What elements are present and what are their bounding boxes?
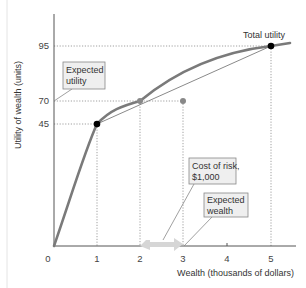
point-3-70 [180, 98, 186, 104]
total-utility-label: Total utility [243, 30, 286, 40]
x-tick-4: 4 [224, 253, 229, 264]
svg-text:wealth: wealth [206, 206, 233, 216]
x-tick-0: 0 [45, 253, 50, 264]
expected-utility-chord [97, 46, 271, 124]
svg-text:Expected: Expected [66, 65, 104, 75]
point-2-70 [137, 98, 143, 104]
x-tick-2: 2 [137, 253, 142, 264]
utility-chart: Utility of wealth (units) 95 70 45 0 1 2… [0, 0, 306, 288]
x-tick-3: 3 [180, 253, 185, 264]
y-axis-label: Utility of wealth (units) [13, 61, 23, 149]
svg-text:utility: utility [66, 76, 87, 86]
y-tick-95: 95 [38, 40, 49, 51]
svg-text:$1,000: $1,000 [192, 172, 220, 182]
cost-of-risk-arrow [140, 238, 183, 251]
expected-wealth-callout: Expected wealth [184, 193, 248, 246]
expected-utility-callout: Expected utility [54, 62, 105, 101]
x-axis-label: Wealth (thousands of dollars) [177, 268, 294, 278]
point-5-95 [268, 43, 275, 50]
point-1-45 [94, 121, 101, 128]
svg-text:Cost of risk,: Cost of risk, [192, 161, 240, 171]
x-tick-5: 5 [268, 253, 273, 264]
y-tick-70: 70 [38, 95, 49, 106]
y-tick-45: 45 [38, 118, 49, 129]
svg-text:Expected: Expected [207, 195, 245, 205]
x-tick-1: 1 [94, 253, 99, 264]
